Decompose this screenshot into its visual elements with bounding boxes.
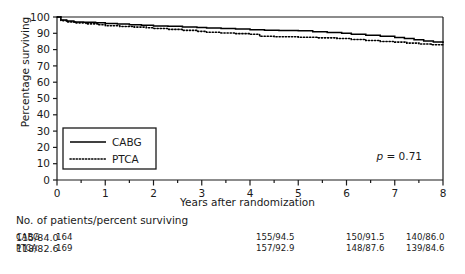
risk-table-row: PTCA169157/92.9148/87.6139/84.6118/82.6 bbox=[16, 243, 461, 254]
risk-table: No. of patients/percent surviving CABG16… bbox=[16, 214, 461, 254]
y-tick-label: 90 bbox=[37, 27, 50, 39]
y-tick-label: 80 bbox=[37, 43, 50, 55]
plot-area: 0102030405060708090100012345678CABGPTCAp… bbox=[0, 0, 465, 210]
y-tick-label: 50 bbox=[37, 92, 50, 104]
y-tick-label: 70 bbox=[37, 60, 50, 72]
risk-cell: 157/92.9 bbox=[256, 243, 294, 254]
risk-cell: 169 bbox=[56, 243, 72, 254]
legend-label-ptca: PTCA bbox=[112, 153, 139, 165]
y-tick-label: 40 bbox=[37, 108, 50, 120]
y-tick-label: 30 bbox=[37, 125, 50, 137]
x-axis-title-text: Years after randomization bbox=[150, 196, 315, 208]
p-value-annotation: p = 0.71 bbox=[375, 150, 422, 162]
risk-table-rows: CABG164155/94.5150/91.5140/86.0115/84.0P… bbox=[16, 232, 461, 254]
risk-row-label: CABG bbox=[16, 232, 50, 243]
y-tick-label: 10 bbox=[37, 157, 50, 169]
km-survival-figure: 0102030405060708090100012345678CABGPTCAp… bbox=[0, 0, 465, 274]
risk-table-title: No. of patients/percent surviving bbox=[16, 214, 461, 226]
risk-cell: 150/91.5 bbox=[346, 232, 384, 243]
y-tick-label: 0 bbox=[43, 174, 50, 186]
risk-table-row: CABG164155/94.5150/91.5140/86.0115/84.0 bbox=[16, 232, 461, 243]
survival-chart-svg: 0102030405060708090100012345678CABGPTCAp… bbox=[0, 0, 465, 210]
x-axis-title: Years after randomization bbox=[0, 196, 465, 208]
y-tick-label: 100 bbox=[30, 11, 50, 23]
risk-cell: 139/84.6 bbox=[406, 243, 444, 254]
legend-box bbox=[63, 128, 156, 169]
legend-label-cabg: CABG bbox=[112, 136, 142, 148]
y-axis-title: Percentage surviving bbox=[19, 0, 31, 157]
risk-cell: 148/87.6 bbox=[346, 243, 384, 254]
risk-cell: 140/86.0 bbox=[406, 232, 444, 243]
risk-row-label: PTCA bbox=[16, 243, 50, 254]
risk-cell: 155/94.5 bbox=[256, 232, 294, 243]
risk-cell: 164 bbox=[56, 232, 72, 243]
series-line-ptca bbox=[57, 17, 443, 45]
y-tick-label: 20 bbox=[37, 141, 50, 153]
series-line-cabg bbox=[57, 17, 443, 43]
y-tick-label: 60 bbox=[37, 76, 50, 88]
